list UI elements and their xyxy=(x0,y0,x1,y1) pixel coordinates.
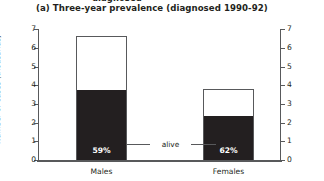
y-tick-label-left-7: 7 xyxy=(0,25,36,33)
bar-females-total: 62% xyxy=(203,89,254,161)
y-tick-right-2 xyxy=(281,123,285,124)
y-tick-label-right-3: 3 xyxy=(287,100,292,108)
y-tick-right-7 xyxy=(281,29,285,30)
leader-line-females xyxy=(191,144,216,145)
chart-title: (a) Three-year prevalence (diagnosed 199… xyxy=(36,3,268,13)
y-axis-left-line xyxy=(38,29,39,161)
y-tick-label-left-2: 2 xyxy=(0,119,36,127)
prevalence-chart-figure: diagnosed (a) Three-year prevalence (dia… xyxy=(0,0,324,181)
y-tick-right-0 xyxy=(281,160,285,161)
y-tick-label-right-5: 5 xyxy=(287,63,292,71)
y-axis-title: Number of cases (thousands) xyxy=(0,15,2,165)
bar-females-alive-percent: 62% xyxy=(204,146,253,155)
leader-line-males xyxy=(127,144,150,145)
bar-males-alive: 59% xyxy=(77,90,126,160)
y-tick-right-4 xyxy=(281,85,285,86)
y-tick-label-right-6: 6 xyxy=(287,44,292,52)
y-tick-label-left-1: 1 xyxy=(0,137,36,145)
y-tick-label-right-4: 4 xyxy=(287,81,292,89)
y-tick-label-right-0: 0 xyxy=(287,156,292,164)
bar-males-total: 59% xyxy=(76,36,127,161)
x-category-label-females: Females xyxy=(203,167,254,176)
y-tick-label-left-5: 5 xyxy=(0,63,36,71)
y-tick-right-1 xyxy=(281,141,285,142)
y-tick-label-left-4: 4 xyxy=(0,81,36,89)
bar-males-alive-percent: 59% xyxy=(77,146,126,155)
y-tick-right-3 xyxy=(281,104,285,105)
x-category-label-males: Males xyxy=(76,167,127,176)
y-tick-label-left-6: 6 xyxy=(0,44,36,52)
annotation-alive-label: alive xyxy=(150,140,191,149)
bar-females-alive: 62% xyxy=(204,116,253,160)
plot-area: 0 1 2 3 4 5 6 7 0 1 2 3 4 5 6 7 Number o… xyxy=(38,29,281,161)
y-tick-right-5 xyxy=(281,67,285,68)
y-tick-label-left-3: 3 xyxy=(0,100,36,108)
y-tick-right-6 xyxy=(281,48,285,49)
y-tick-label-left-0: 0 xyxy=(0,156,36,164)
y-tick-label-right-2: 2 xyxy=(287,119,292,127)
y-tick-label-right-1: 1 xyxy=(287,137,292,145)
y-tick-label-right-7: 7 xyxy=(287,25,292,33)
